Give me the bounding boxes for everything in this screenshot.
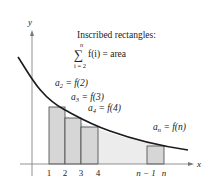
label-a3: a3 = f(3): [71, 92, 104, 103]
x-axis-label: x: [196, 159, 201, 169]
rectangle-an: [147, 146, 164, 164]
title-text: Inscribed rectangles:: [77, 30, 156, 40]
label-an: an = f(n): [153, 122, 186, 133]
tick-3: 3: [79, 168, 84, 178]
diagram-canvas: x y 1 2 3 4 n − 1 n Inscribed rectangles…: [0, 0, 211, 185]
tick-2: 2: [63, 168, 68, 178]
sum-expression: f(i) = area: [88, 49, 127, 60]
tick-n-minus-1: n − 1: [136, 168, 156, 178]
tick-n: n: [162, 168, 167, 178]
y-axis-label: y: [27, 17, 32, 27]
sum-symbol: ∑: [74, 47, 83, 62]
label-a4: a4 = f(4): [88, 103, 121, 114]
tick-1: 1: [47, 168, 52, 178]
sum-lower-limit: i = 2: [74, 62, 86, 69]
inscribed-rectangles-diagram: x y 1 2 3 4 n − 1 n Inscribed rectangles…: [0, 0, 211, 185]
rectangle-a2: [49, 107, 65, 164]
rectangle-a4: [81, 127, 98, 164]
tick-4: 4: [96, 168, 101, 178]
y-axis-arrow-icon: [30, 30, 34, 36]
x-axis-arrow-icon: [188, 162, 194, 166]
rectangle-a3: [65, 118, 81, 164]
label-a2: a2 = f(2): [55, 78, 88, 89]
